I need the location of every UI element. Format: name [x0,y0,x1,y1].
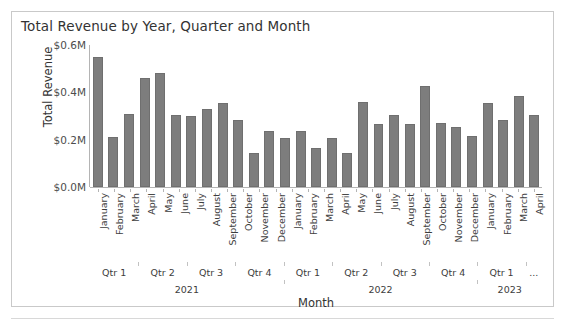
x-axis-month-tick: February [106,189,122,255]
bar[interactable] [389,115,399,187]
bar[interactable] [124,114,134,187]
x-axis-quarter-label[interactable]: Qtr 4 [429,265,477,280]
bar[interactable] [311,148,321,187]
quarter-separator [526,262,527,266]
chart-panel: Total Revenue by Year, Quarter and Month… [11,11,554,307]
x-axis-month-tick: July [187,189,203,255]
plot-area [90,45,542,187]
bar[interactable] [264,131,274,187]
bar-slot [106,45,122,187]
x-axis-month-tick: April [138,189,154,255]
x-axis-month-tick: October [235,189,251,255]
x-axis-quarter-label[interactable]: Qtr 3 [381,265,429,280]
bar[interactable] [327,138,337,187]
bar[interactable] [436,123,446,187]
quarter-separator [187,262,188,266]
bar-slot [449,45,465,187]
x-axis-year-label[interactable]: 2022 [284,282,478,296]
tick-mark [163,189,164,192]
x-axis-month-tick: August [203,189,219,255]
bar[interactable] [202,109,212,187]
x-axis-month-tick: June [171,189,187,255]
chart-title: Total Revenue by Year, Quarter and Month [21,18,310,34]
bar-slot [277,45,293,187]
bar[interactable] [374,124,384,187]
x-axis-month-tick: December [268,189,284,255]
quarter-label-text: Qtr 1 [102,267,126,278]
x-axis-month-tick: August [397,189,413,255]
x-axis-quarter-label[interactable]: Qtr 1 [90,265,138,280]
year-separator [477,280,478,284]
bar-slot [152,45,168,187]
quarter-label-text: Qtr 2 [344,267,368,278]
bar[interactable] [140,78,150,187]
x-axis-quarter-label[interactable]: Qtr 3 [187,265,235,280]
bar[interactable] [405,124,415,187]
bar[interactable] [280,138,290,187]
quarter-label-text: Qtr 3 [199,267,223,278]
x-axis-quarter-label[interactable]: ... [526,265,542,280]
bar[interactable] [108,137,118,187]
bar[interactable] [529,115,539,187]
tick-mark [308,189,309,192]
tick-mark [453,189,454,192]
bar-slot [246,45,262,187]
y-axis-tick-label: $0.0M [54,181,86,193]
tick-mark [437,189,438,192]
bar[interactable] [186,116,196,187]
tick-mark [405,189,406,192]
bar[interactable] [93,57,103,187]
tick-mark [356,189,357,192]
x-axis-month-label[interactable]: April [534,193,545,215]
bar-slot [527,45,543,187]
bar[interactable] [358,102,368,187]
x-axis-quarter-label[interactable]: Qtr 4 [235,265,283,280]
x-axis-month-tick: October [429,189,445,255]
tick-mark [534,189,535,192]
x-axis-quarter-label[interactable]: Qtr 2 [138,265,186,280]
tick-mark [485,189,486,192]
bar[interactable] [483,103,493,187]
y-axis-tick-label: $0.2M [54,134,86,146]
bar[interactable] [467,136,477,187]
bar-slot [371,45,387,187]
bar[interactable] [233,120,243,187]
x-axis-year-label[interactable]: 2023 [477,282,542,296]
bar-slot [511,45,527,187]
bar[interactable] [514,96,524,187]
x-axis-quarter-label[interactable]: Qtr 1 [284,265,332,280]
bar-slot [199,45,215,187]
bar[interactable] [296,131,306,187]
bar-slot [324,45,340,187]
bar[interactable] [249,153,259,187]
y-axis-tick-labels: $0.0M$0.2M$0.4M$0.6M [40,45,86,193]
bar-slot [433,45,449,187]
bar-slot [417,45,433,187]
x-axis-month-tick: July [381,189,397,255]
bar[interactable] [342,153,352,187]
x-axis-month-tick: June [364,189,380,255]
bar-series [90,45,542,187]
bar[interactable] [451,127,461,187]
tick-mark [259,189,260,192]
x-axis-month-tick: April [526,189,542,255]
bar-slot [480,45,496,187]
bar[interactable] [218,103,228,187]
bar[interactable] [498,120,508,187]
bar[interactable] [155,73,165,187]
x-axis-month-tick: November [445,189,461,255]
x-axis-quarter-label[interactable]: Qtr 1 [477,265,525,280]
bar[interactable] [171,115,181,187]
x-axis-year-label[interactable]: 2021 [90,282,284,296]
tick-mark [340,189,341,192]
x-axis-month-tick: November [251,189,267,255]
bar-slot [137,45,153,187]
x-axis-quarter-label[interactable]: Qtr 2 [332,265,380,280]
x-axis-month-tick: March [122,189,138,255]
year-label-text: 2022 [368,284,392,295]
x-axis-month-tick: April [332,189,348,255]
bar-slot [464,45,480,187]
x-axis-month-tick: December [461,189,477,255]
bar[interactable] [420,86,430,187]
tick-mark [502,189,503,192]
